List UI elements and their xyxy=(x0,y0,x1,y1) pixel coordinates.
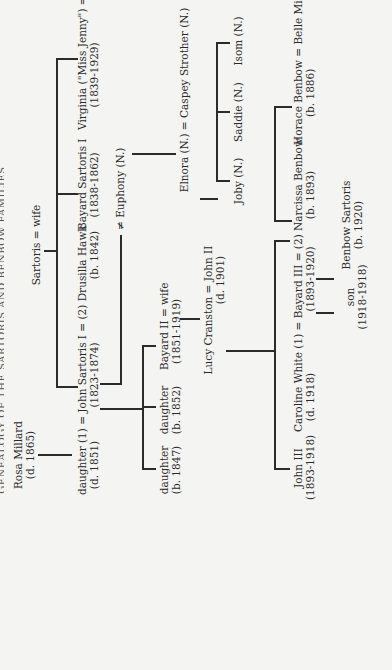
person-daughter-1852: daughter(b. 1852) xyxy=(158,382,182,438)
drop-saddie xyxy=(216,111,230,113)
person-saddie: Saddie (N.) xyxy=(232,82,244,142)
person-john-sartoris-i: daughter (1) = John Sartoris I = (2) Dru… xyxy=(76,215,88,495)
diagram-title: GENEALOGY OF THE SARTORIS AND BENBOW FAM… xyxy=(0,130,4,530)
drop-daughter-1847 xyxy=(142,468,156,470)
person-daughter-1847: daughter(b. 1847) xyxy=(158,445,182,495)
daughter-dates: (d. 1851) xyxy=(88,440,100,490)
rosa-line xyxy=(38,454,72,456)
person-joby: Joby (N.) xyxy=(232,154,244,208)
narcissa-up xyxy=(274,220,292,222)
drop-bayard-iii xyxy=(274,240,290,242)
john-euphony-bar xyxy=(120,235,122,385)
gen3-bar xyxy=(274,240,276,470)
person-bayard-iii: Caroline White (1) = Bayard III = (2) Na… xyxy=(292,132,304,432)
caroline-dates: (d. 1918) xyxy=(304,372,316,422)
person-son: son(1918-1918) xyxy=(344,264,368,330)
benbow-sartoris-drop xyxy=(316,278,334,280)
virginia-dates: (1839-1929) xyxy=(88,40,100,110)
john-euphony-link xyxy=(100,383,122,385)
john-i-dates: (1823-1874) xyxy=(88,335,100,415)
person-isom: Isom (N.) xyxy=(232,14,244,68)
drop-daughter-1852 xyxy=(142,406,156,408)
horace-up xyxy=(274,106,292,108)
person-euphony: ≠ Euphony (N.) xyxy=(114,150,126,230)
son-drop xyxy=(316,312,334,314)
person-john-iii: John III(1893-1918) xyxy=(292,436,316,500)
person-bayard-sartoris-i: Bayard Sartoris I(1838-1862) xyxy=(76,140,100,230)
drop-bayard-ii xyxy=(142,345,156,347)
person-bayard-ii: Bayard II = wife(1851-1919) xyxy=(158,275,182,370)
root-drop-line xyxy=(44,250,56,252)
euphony-drop xyxy=(132,153,166,155)
drop-john-iii xyxy=(274,468,290,470)
bayard-iii-dates: (1893-1920) xyxy=(304,244,316,314)
euphony-drop2 xyxy=(164,153,176,155)
person-rosa-millard: Rosa Millard(d. 1865) xyxy=(12,420,36,490)
person-horace-benbow: Horace Benbow = Belle Mitchell(b. 1886) xyxy=(292,0,316,145)
drop-isom xyxy=(216,42,230,44)
family-tree-diagram: GENEALOGY OF THE SARTORIS AND BENBOW FAM… xyxy=(0,0,392,670)
gen1-bar xyxy=(56,58,58,388)
john-ii-drop xyxy=(226,350,276,352)
person-benbow-sartoris: Benbow Sartoris(b. 1920) xyxy=(340,180,364,270)
benbow-bar xyxy=(274,106,276,222)
narcissa-dates: (b. 1893) xyxy=(304,165,316,225)
person-elnora: Elnora (N.) = Caspey Strother (N.) xyxy=(178,0,190,200)
drop-joby xyxy=(216,180,230,182)
drop-bayard-i xyxy=(56,193,78,195)
elnora-drop xyxy=(200,198,218,200)
drop-virginia xyxy=(56,58,78,60)
root-couple: Sartoris = wife xyxy=(30,190,42,300)
drop-john xyxy=(56,386,78,388)
drusilla-dates: (b. 1842) xyxy=(88,225,100,285)
person-john-ii: Lucy Cranston = John II(d. 1901) xyxy=(202,240,226,380)
john-children-drop xyxy=(100,408,144,410)
bayard-ii-drop xyxy=(180,318,200,320)
person-virginia: Virginia ("Miss Jenny") = DuPre xyxy=(76,0,88,130)
